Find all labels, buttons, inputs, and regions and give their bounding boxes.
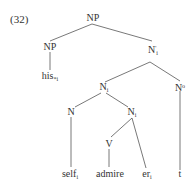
leaf-t: t [179,169,182,179]
leaf-self: selfi [62,169,78,182]
node-np-left: NP [44,42,57,52]
leaf-er: eri [142,169,151,182]
node-n-zero: No [175,81,185,93]
node-n-left: N [67,107,74,117]
leaf-his: his*i [42,71,58,84]
tree-branches [0,0,196,185]
node-n-i-upper: Ni [100,82,109,95]
leaf-admire: admire [96,169,124,179]
node-v: V [105,139,112,149]
node-n-i-lower: Ni [128,107,137,120]
node-nbar: N'i [148,43,158,58]
node-np-root: NP [87,13,100,23]
